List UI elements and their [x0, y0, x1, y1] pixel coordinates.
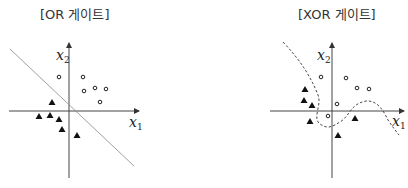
circle-points: [57, 75, 108, 104]
nonlinear-boundary: [283, 42, 399, 135]
linear-boundary: [10, 49, 134, 166]
x2-axis-label: x2: [56, 47, 70, 65]
triangle-points: [36, 99, 81, 138]
x2-axis-label: x2: [317, 47, 331, 65]
xor-gate-plot: x2 x1: [270, 42, 406, 178]
or-gate-plot: x2 x1: [9, 43, 143, 178]
triangle-points: [301, 86, 359, 138]
x1-axis-label: x1: [392, 113, 406, 131]
gate-diagrams: x2 x1 x2 x1: [0, 0, 408, 188]
x1-axis-label: x1: [129, 114, 143, 132]
